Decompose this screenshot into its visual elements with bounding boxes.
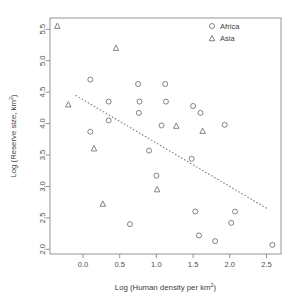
regression-trend-line bbox=[76, 95, 268, 209]
scatter-plot-figure: 0.00.51.01.52.02.52.02.53.03.54.04.55.05… bbox=[0, 0, 292, 303]
data-point-triangle bbox=[100, 201, 105, 206]
data-point-circle bbox=[159, 123, 164, 128]
x-tick-label: 1.5 bbox=[188, 260, 199, 269]
x-axis: 0.00.51.01.52.02.5 bbox=[78, 254, 272, 269]
y-tick-label: 4.0 bbox=[38, 118, 47, 129]
data-point-triangle bbox=[209, 35, 214, 40]
data-point-circle bbox=[222, 122, 227, 127]
data-point-triangle bbox=[173, 123, 178, 128]
data-point-circle bbox=[137, 99, 142, 104]
legend-label-asia: Asia bbox=[220, 34, 236, 43]
data-point-circle bbox=[229, 220, 234, 225]
x-tick-label: 0.0 bbox=[78, 260, 89, 269]
legend: AfricaAsia bbox=[209, 22, 240, 44]
y-tick-label: 2.5 bbox=[38, 213, 47, 224]
y-tick-label: 5.5 bbox=[38, 24, 47, 35]
data-point-triangle bbox=[200, 128, 205, 133]
data-point-circle bbox=[210, 24, 215, 29]
chart-canvas: 0.00.51.01.52.02.52.02.53.03.54.04.55.05… bbox=[0, 0, 292, 303]
x-tick-label: 2.5 bbox=[261, 260, 272, 269]
y-tick-label: 3.0 bbox=[38, 181, 47, 192]
data-point-circle bbox=[106, 118, 111, 123]
data-point-circle bbox=[193, 209, 198, 214]
data-point-circle bbox=[196, 233, 201, 238]
data-point-circle bbox=[213, 239, 218, 244]
data-point-triangle bbox=[55, 23, 60, 28]
x-tick-label: 1.0 bbox=[151, 260, 162, 269]
x-axis-title-tail: ) bbox=[214, 283, 217, 292]
series-asia bbox=[55, 23, 206, 206]
data-point-circle bbox=[198, 110, 203, 115]
data-point-circle bbox=[191, 103, 196, 108]
y-tick-label: 5.0 bbox=[38, 55, 47, 66]
data-point-triangle bbox=[66, 102, 71, 107]
plot-frame bbox=[50, 18, 281, 254]
data-point-triangle bbox=[91, 146, 96, 151]
data-point-circle bbox=[154, 173, 159, 178]
y-tick-label: 2.0 bbox=[38, 244, 47, 255]
data-point-triangle bbox=[113, 45, 118, 50]
data-point-circle bbox=[232, 209, 237, 214]
y-axis-title-main: Log (Reserve size, km bbox=[9, 100, 18, 178]
y-tick-label: 4.5 bbox=[38, 87, 47, 98]
data-point-circle bbox=[88, 129, 93, 134]
y-axis-title-tail: ) bbox=[9, 94, 18, 97]
y-axis: 2.02.53.03.54.04.55.05.5 bbox=[38, 24, 50, 255]
y-axis-title: Log (Reserve size, km2) bbox=[8, 94, 18, 178]
x-tick-label: 2.0 bbox=[225, 260, 236, 269]
data-point-circle bbox=[88, 77, 93, 82]
data-point-circle bbox=[189, 156, 194, 161]
data-point-circle bbox=[127, 222, 132, 227]
x-tick-label: 0.5 bbox=[114, 260, 125, 269]
data-point-triangle bbox=[154, 186, 159, 191]
data-point-circle bbox=[136, 81, 141, 86]
data-point-circle bbox=[147, 148, 152, 153]
series-africa bbox=[88, 77, 275, 247]
data-point-circle bbox=[106, 99, 111, 104]
legend-label-africa: Africa bbox=[220, 22, 240, 31]
x-axis-title: Log (Human density per km2) bbox=[115, 282, 217, 292]
data-point-circle bbox=[163, 81, 168, 86]
data-point-circle bbox=[270, 242, 275, 247]
data-point-circle bbox=[136, 110, 141, 115]
y-tick-label: 3.5 bbox=[38, 150, 47, 161]
data-point-circle bbox=[163, 99, 168, 104]
x-axis-title-main: Log (Human density per km bbox=[115, 283, 211, 292]
